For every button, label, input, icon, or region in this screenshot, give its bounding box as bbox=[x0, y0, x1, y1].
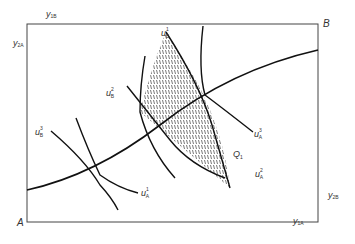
u1A-curve bbox=[76, 118, 138, 193]
label-u2A: u2A bbox=[255, 167, 264, 180]
label-y1B: y1B bbox=[45, 9, 57, 19]
label-u3A: u3A bbox=[254, 127, 263, 140]
label-Q1: Q1 bbox=[233, 149, 243, 160]
label-y1A: y1A bbox=[292, 216, 304, 226]
edgeworth-box-diagram: y1B y2A B A y2B y1A u1B u2B u3B u3A u2A … bbox=[0, 0, 355, 244]
label-A: A bbox=[16, 217, 24, 228]
hatched-region bbox=[140, 32, 230, 188]
label-u3B: u3B bbox=[35, 125, 44, 138]
label-B: B bbox=[323, 18, 330, 29]
label-u1B: u1B bbox=[161, 26, 170, 39]
label-u1A: u1A bbox=[141, 186, 150, 199]
label-u2B: u2B bbox=[106, 86, 115, 99]
label-y2A: y2A bbox=[12, 38, 24, 48]
label-y2B: y2B bbox=[327, 190, 339, 200]
